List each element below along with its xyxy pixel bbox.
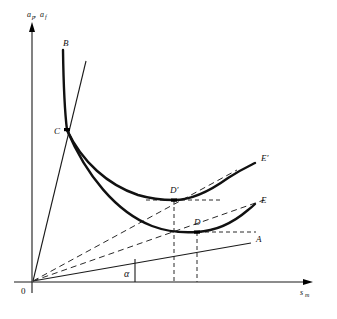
label-d: D xyxy=(193,217,201,227)
origin-label: 0 xyxy=(21,286,26,296)
construction-lines-group xyxy=(135,200,256,282)
label-d-prime: D′ xyxy=(169,185,179,195)
label-e: E xyxy=(260,195,267,205)
tangent-ray-d xyxy=(33,200,264,281)
point-marker-d-prime xyxy=(171,199,177,202)
y-axis-label-a2: a xyxy=(40,10,44,19)
ray-a xyxy=(33,243,251,281)
label-c: C xyxy=(54,126,61,136)
labels-group: a p , a f s m 0 α B C D′ D E′ E A xyxy=(21,10,310,298)
curve-e xyxy=(67,130,255,232)
ray-through-c xyxy=(33,61,86,281)
curve-e-prime xyxy=(67,130,255,200)
label-a: A xyxy=(255,234,262,244)
y-axis-label-sub-f: f xyxy=(45,14,48,20)
straight-rays-group xyxy=(33,61,251,281)
y-axis-label-separator: , xyxy=(34,10,36,19)
marker-points-group xyxy=(64,128,200,234)
x-axis-label-s: s xyxy=(300,288,303,297)
technical-diagram-svg: a p , a f s m 0 α B C D′ D E′ E A xyxy=(0,0,337,319)
curves-group xyxy=(63,50,255,232)
label-e-prime: E′ xyxy=(260,153,269,163)
point-marker-c xyxy=(64,128,70,131)
y-axis-label-a1: a xyxy=(27,10,31,19)
y-axis-arrowhead xyxy=(29,22,35,32)
point-marker-d xyxy=(194,231,200,234)
x-axis-arrowhead xyxy=(303,279,313,285)
curve-b xyxy=(63,50,67,130)
diagram-canvas: a p , a f s m 0 α B C D′ D E′ E A xyxy=(0,0,337,319)
angle-alpha-label: α xyxy=(124,268,130,279)
x-axis-label-sub-m: m xyxy=(305,292,310,298)
label-b: B xyxy=(63,38,69,48)
